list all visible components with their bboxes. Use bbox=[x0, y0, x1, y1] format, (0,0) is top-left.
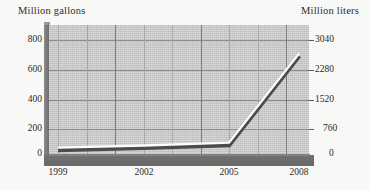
y-tick-label-800: 800 bbox=[28, 34, 42, 44]
x-tick-label-1999: 1999 bbox=[49, 167, 68, 177]
y2-tick-label-2280: 2280 bbox=[315, 64, 334, 74]
y-tick-label-200: 200 bbox=[28, 123, 42, 133]
y2-tick-label-760: 760 bbox=[323, 123, 337, 133]
series-shadow bbox=[58, 56, 299, 150]
data-series-line bbox=[49, 25, 309, 155]
x-tick-label-2008: 2008 bbox=[290, 167, 309, 177]
series-highlight bbox=[58, 54, 299, 148]
left-axis-title: Million gallons bbox=[18, 5, 85, 16]
y2-tick-label-1520: 1520 bbox=[315, 94, 334, 104]
chart-figure: Million gallons Million liters 800 600 4… bbox=[0, 0, 370, 190]
x-tick-label-2005: 2005 bbox=[220, 167, 239, 177]
y-axis-right-labels: 3040 2280 1520 760 0 bbox=[315, 25, 365, 155]
x-axis-labels: 1999 2002 2005 2008 bbox=[49, 167, 310, 183]
y-tick-label-400: 400 bbox=[28, 94, 42, 104]
x-tick-label-2002: 2002 bbox=[135, 167, 154, 177]
y2-tick-label-3040: 3040 bbox=[315, 34, 334, 44]
y2-tick-label-0: 0 bbox=[329, 148, 334, 158]
series-svg bbox=[49, 25, 311, 157]
y-tick-label-600: 600 bbox=[28, 64, 42, 74]
y-axis-left-labels: 800 600 400 200 0 bbox=[6, 25, 42, 155]
right-axis-title: Million liters bbox=[301, 5, 359, 16]
y-tick-label-0: 0 bbox=[37, 148, 42, 158]
